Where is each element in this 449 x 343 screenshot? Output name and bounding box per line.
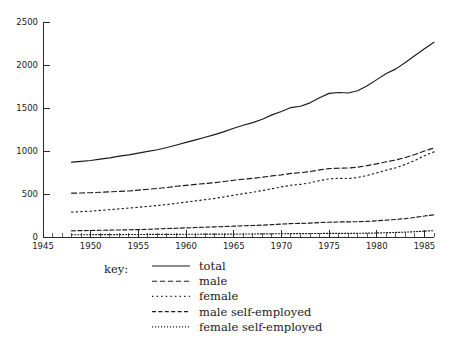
y-tick-label: 2500 xyxy=(16,17,38,27)
chart-legend: key: totalmalefemalemale self-employedfe… xyxy=(104,259,323,334)
y-axis-tick-labels: 05001000150020002500 xyxy=(16,17,38,242)
legend-label: female self-employed xyxy=(199,320,323,334)
legend-label: total xyxy=(199,259,226,273)
x-tick-label: 1965 xyxy=(223,241,245,251)
x-tick-label: 1950 xyxy=(80,241,102,251)
x-axis-tick-labels: 194519501955196019651970197519801985 xyxy=(32,241,435,251)
x-tick-label: 1975 xyxy=(318,241,340,251)
y-tick-label: 1000 xyxy=(16,146,38,156)
y-tick-label: 2000 xyxy=(16,60,38,70)
series-line-total xyxy=(72,42,434,162)
line-chart-svg: 05001000150020002500 1945195019551960196… xyxy=(0,0,449,343)
y-tick-label: 1500 xyxy=(16,103,38,113)
x-tick-label: 1960 xyxy=(175,241,197,251)
legend-label: male xyxy=(199,274,227,288)
data-series-group xyxy=(72,42,434,235)
x-tick-label: 1970 xyxy=(271,241,293,251)
x-tick-label: 1980 xyxy=(366,241,388,251)
legend-label: female xyxy=(199,289,239,303)
x-tick-label: 1955 xyxy=(128,241,150,251)
y-axis-ticks xyxy=(43,22,50,237)
x-tick-label: 1985 xyxy=(414,241,436,251)
legend-title: key: xyxy=(104,262,128,276)
chart-figure: 05001000150020002500 1945195019551960196… xyxy=(0,0,449,343)
series-line-female-self-employed xyxy=(72,231,434,235)
legend-items: totalmalefemalemale self-employedfemale … xyxy=(152,259,323,334)
legend-label: male self-employed xyxy=(199,305,312,319)
series-line-male-self-employed xyxy=(72,215,434,231)
y-tick-label: 500 xyxy=(22,189,38,199)
x-tick-label: 1945 xyxy=(32,241,54,251)
series-line-female xyxy=(72,152,434,212)
